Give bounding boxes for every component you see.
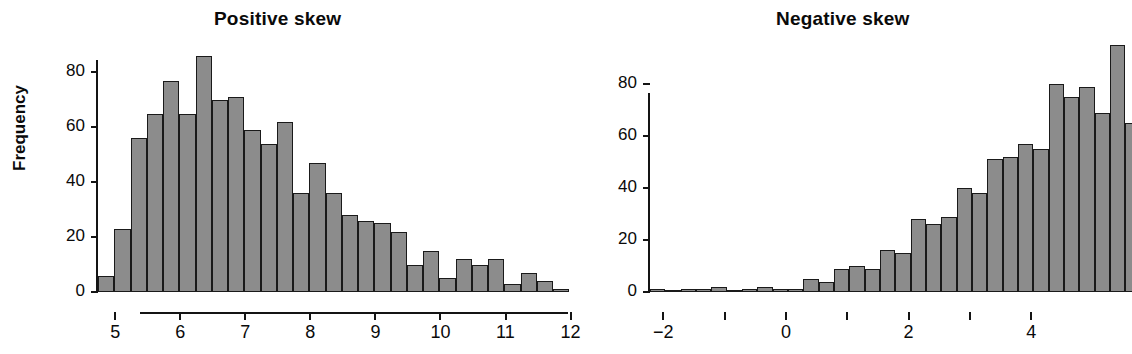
histogram-bar [895,253,910,292]
histogram-bar [880,250,895,292]
histogram-bar [941,217,956,292]
chart-panel-positive-skew: Positive skew Frequency 020406080 567891… [0,0,580,354]
histogram-bar [391,232,407,292]
histogram-bar [407,265,423,292]
histogram-bar [681,289,696,292]
y-axis-tick [643,83,650,85]
histogram-bar [472,265,488,292]
histogram-bar [163,81,179,292]
x-axis-tick-label: 2 [889,322,929,343]
y-axis-tick [91,291,98,293]
y-axis-tick [91,71,98,73]
y-axis-tick-label: 20 [603,229,637,249]
x-axis-tick-label: 0 [766,322,806,343]
histogram-bar [1003,157,1018,292]
x-axis-tick [439,312,441,320]
histogram-bar [865,269,880,292]
x-axis-tick [374,312,376,320]
x-axis-tick-label: 10 [420,322,460,343]
histogram-bar [819,282,834,292]
x-axis-tick [114,312,116,320]
y-axis-tick-label: 80 [51,61,85,81]
x-axis-tick-label: 5 [95,322,135,343]
histogram-bar [911,219,926,292]
histogram-bar [358,221,374,292]
histogram-bar [773,289,788,292]
histogram-bar [803,279,818,292]
y-axis-tick-label: 60 [51,116,85,136]
histogram-bar [228,97,244,292]
histogram-bar [696,289,711,292]
y-axis-tick-label: 20 [51,226,85,246]
y-axis-tick [643,239,650,241]
histogram-bar [277,122,293,292]
histogram-bars-negative-skew [650,45,1110,292]
x-axis-tick [309,312,311,320]
histogram-bar [553,289,569,292]
histogram-bar [342,215,358,292]
histogram-bar [1018,144,1033,292]
x-axis-tick-label: 9 [355,322,395,343]
x-axis-tick-label: 7 [225,322,265,343]
y-axis-tick [91,181,98,183]
x-axis-tick-label: 11 [485,322,525,343]
histogram-bar [849,266,864,292]
histogram-bar [1049,84,1064,292]
histogram-bar [987,159,1002,292]
histogram-bar [293,193,309,292]
y-axis-tick [643,187,650,189]
x-axis-tick-label: 6 [160,322,200,343]
histogram-bar [504,284,520,292]
x-axis-tick [662,312,664,320]
x-axis-tick-label: −2 [643,322,683,343]
histogram-bar [972,193,987,292]
y-axis-tick-label: 0 [51,281,85,301]
histogram-bar [98,276,114,292]
y-axis-tick [643,135,650,137]
histogram-bar [244,130,260,292]
y-axis-label-frequency: Frequency [10,68,30,188]
histogram-bar [537,281,553,292]
histogram-bar [1064,97,1079,292]
x-axis-tick [1030,312,1032,320]
histogram-bar [1125,123,1132,292]
histogram-bar [834,269,849,292]
y-axis-tick-label: 0 [603,281,637,301]
y-axis-tick-label: 60 [603,125,637,145]
histogram-bar [665,290,680,292]
x-axis-tick-label: 8 [290,322,330,343]
y-axis-tick [91,236,98,238]
histogram-bar [757,287,772,292]
x-axis-tick [785,312,787,320]
histogram-bar [423,251,439,292]
histogram-bar [212,100,228,292]
x-axis-tick [969,312,971,320]
histogram-bar [261,144,277,292]
chart-panel-negative-skew: Negative skew 020406080 −2024 [580,0,1132,354]
histogram-bar [957,188,972,292]
x-axis-tick [570,312,572,320]
plot-area-positive-skew [98,45,576,292]
x-axis-tick [244,312,246,320]
histogram-bar [650,289,665,292]
x-axis-tick [908,312,910,320]
y-axis-tick-label: 40 [603,177,637,197]
x-axis-tick [505,312,507,320]
histogram-bar [374,223,390,292]
histogram-bar [131,138,147,292]
histogram-bar [179,114,195,292]
histogram-bar [147,114,163,292]
histogram-bar [1095,113,1110,292]
y-axis-tick-label: 40 [51,171,85,191]
chart-title-negative-skew: Negative skew [776,8,910,30]
y-axis-tick [643,291,650,293]
histogram-bar [711,287,726,292]
histogram-bar [1079,87,1094,292]
histogram-bar [326,193,342,292]
histogram-bar [439,278,455,292]
x-axis-tick [846,312,848,320]
histogram-bar [926,224,941,292]
x-axis-tick-label: 4 [1011,322,1051,343]
histogram-bar [1110,45,1125,292]
histogram-bars-positive-skew [98,45,576,292]
